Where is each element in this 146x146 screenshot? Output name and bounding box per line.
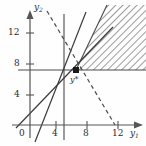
- x-axis-tick-label-8: 8: [83, 129, 89, 138]
- hatched-cone-region: [76, 5, 146, 70]
- x-axis-label-subscript: 1: [135, 132, 139, 139]
- optimal-point-label-text: y*: [70, 75, 79, 84]
- y-tick-8-text: 8: [14, 58, 20, 68]
- y-axis-label: y2: [34, 3, 43, 13]
- x-axis-tick-label-4: 4: [52, 129, 58, 138]
- optimal-point-marker: [73, 67, 79, 73]
- optimal-point-label: y*: [70, 76, 79, 84]
- graph-figure: 12 8 4 0 4 8 12 y2 y1 y*: [0, 0, 146, 146]
- plot-canvas: [0, 0, 146, 146]
- x-axis-label: y1: [130, 129, 139, 139]
- y-axis-tick-label-8: 8: [14, 59, 20, 68]
- origin-label: 0: [19, 129, 25, 138]
- y-tick-12-text: 12: [8, 27, 19, 37]
- y-axis-label-subscript: 2: [39, 6, 43, 13]
- y-axis-tick-label-12: 12: [8, 28, 19, 37]
- x-axis-arrowhead: [134, 122, 143, 129]
- x-axis-tick-label-12: 12: [112, 129, 123, 138]
- y-axis-arrowhead: [27, 10, 34, 19]
- y-axis-tick-label-4: 4: [14, 90, 20, 99]
- y-tick-4-text: 4: [14, 89, 20, 99]
